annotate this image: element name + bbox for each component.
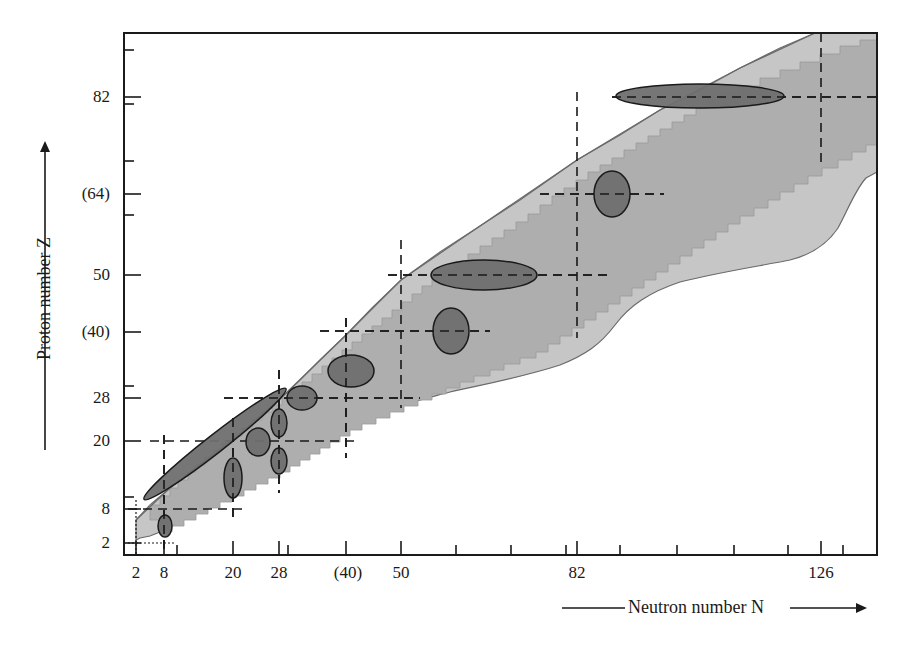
nuclear-chart-figure: 82 (64) 50 (40) 28 20 8 2 2 8 20 28 (40)…	[0, 0, 903, 646]
x-axis-title: Neutron number N	[628, 597, 764, 618]
y-axis-title: Proton number Z	[34, 60, 58, 360]
y-tick-label-2: 2	[50, 534, 110, 552]
y-tick-label-40: (40)	[50, 323, 110, 341]
x-tick-label-126: 126	[796, 564, 846, 582]
y-tick-label-82: 82	[50, 88, 110, 106]
x-tick-label-82: 82	[552, 564, 602, 582]
y-tick-label-20: 20	[50, 432, 110, 450]
deformed-region-n104	[616, 84, 784, 108]
y-tick-label-64: (64)	[50, 185, 110, 203]
x-tick-label-20: 20	[208, 564, 258, 582]
chart-canvas	[0, 0, 903, 646]
y-tick-label-8: 8	[50, 500, 110, 518]
y-tick-label-50: 50	[50, 266, 110, 284]
x-tick-label-40: (40)	[323, 564, 373, 582]
y-tick-label-28: 28	[50, 389, 110, 407]
deformed-region-n40	[328, 355, 374, 387]
x-tick-label-8: 8	[139, 564, 189, 582]
y-axis-ticks	[124, 50, 141, 543]
x-tick-label-50: 50	[376, 564, 426, 582]
deformed-region-n24	[246, 428, 270, 456]
deformed-region-n88	[594, 171, 630, 217]
x-axis-ticks	[136, 541, 843, 555]
deformed-region-n8	[158, 515, 172, 537]
x-tick-label-28: 28	[254, 564, 304, 582]
